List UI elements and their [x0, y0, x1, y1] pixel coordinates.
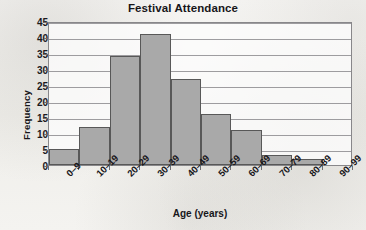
histogram-chart: Festival Attendance Frequency 0510152025… [0, 0, 366, 230]
x-axis-tick-mark [48, 166, 49, 170]
bar [140, 34, 170, 165]
bar [171, 79, 201, 165]
x-axis-label: Age (years) [48, 208, 352, 219]
chart-title: Festival Attendance [0, 2, 366, 14]
gridline [49, 39, 351, 40]
gridline [49, 55, 351, 56]
gridline [49, 23, 351, 24]
bar [110, 56, 140, 165]
plot-area [48, 22, 352, 166]
gridline [49, 71, 351, 72]
